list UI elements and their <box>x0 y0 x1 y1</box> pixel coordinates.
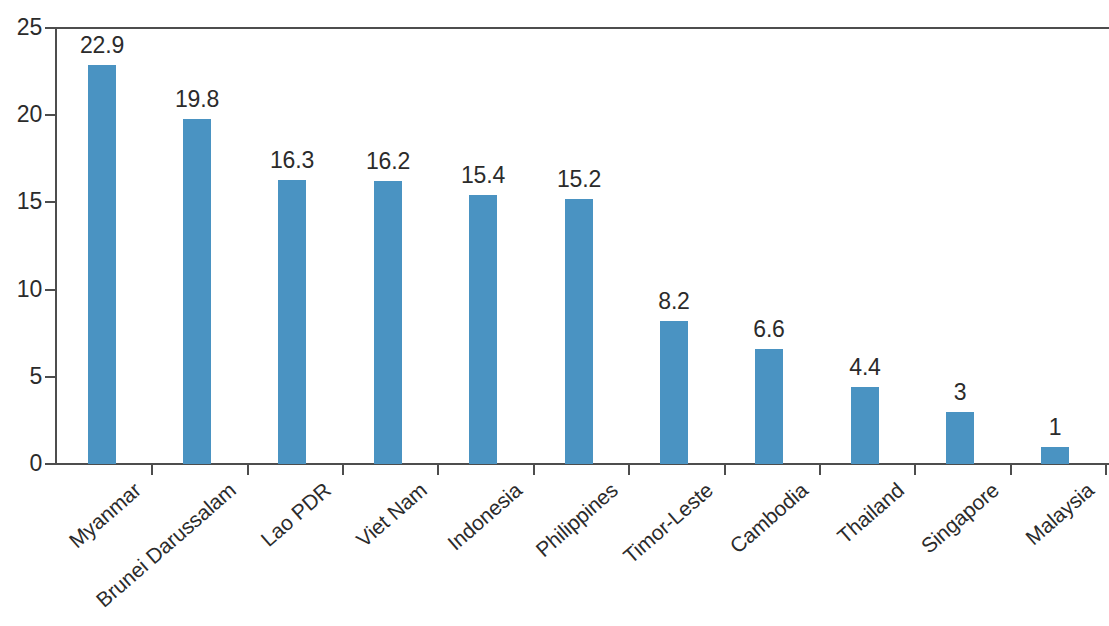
x-axis-tick <box>628 464 630 475</box>
x-axis-category-label-text: Malaysia <box>1021 478 1099 550</box>
bar-value-label: 1 <box>1010 416 1100 439</box>
y-axis: 0510152025 <box>0 0 42 626</box>
bar-chart: 0510152025 22.919.816.316.215.415.28.26.… <box>0 0 1109 626</box>
x-axis-category-label-text: Lao PDR <box>257 478 337 552</box>
bar[interactable] <box>278 180 306 464</box>
bar-value-label: 6.6 <box>724 318 814 341</box>
x-axis-category-label-text: Cambodia <box>726 478 813 558</box>
y-axis-tick-label: 5 <box>0 365 42 388</box>
x-axis-category-label-text: Philippines <box>531 478 623 562</box>
x-axis-category-label-text: Viet Nam <box>351 478 431 552</box>
x-axis-category-label-text: Indonesia <box>443 478 527 555</box>
bar[interactable] <box>660 321 688 464</box>
x-axis-tick <box>533 464 535 475</box>
x-axis-tick <box>914 464 916 475</box>
bar[interactable] <box>183 119 211 464</box>
x-axis-tick <box>437 464 439 475</box>
x-axis-tick <box>1105 464 1107 475</box>
x-axis-category-label-text: Singapore <box>916 478 1003 558</box>
bar-value-label: 22.9 <box>57 34 147 57</box>
bar-value-label: 15.4 <box>438 164 528 187</box>
top-gridline <box>56 27 1109 29</box>
bar-value-label: 15.2 <box>534 168 624 191</box>
x-axis-tick <box>819 464 821 475</box>
bar-value-label: 8.2 <box>629 290 719 313</box>
y-axis-tick-label: 15 <box>0 190 42 213</box>
y-axis-tick-label: 20 <box>0 103 42 126</box>
bar[interactable] <box>374 181 402 464</box>
x-axis-tick <box>151 464 153 475</box>
bar-value-label: 16.2 <box>343 150 433 173</box>
x-axis-category-label-text: Myanmar <box>64 478 145 553</box>
x-axis-tick <box>342 464 344 475</box>
x-axis-tick <box>724 464 726 475</box>
bar[interactable] <box>755 349 783 464</box>
bar-value-label: 4.4 <box>820 356 910 379</box>
bar-value-label: 19.8 <box>152 88 242 111</box>
bar-value-label: 3 <box>915 381 1005 404</box>
y-axis-tick-label: 10 <box>0 278 42 301</box>
x-axis-tick <box>247 464 249 475</box>
bar[interactable] <box>1041 447 1069 464</box>
y-axis-line <box>55 27 57 465</box>
x-axis-category-label-text: Timor-Leste <box>619 478 718 568</box>
bar[interactable] <box>88 65 116 464</box>
bar[interactable] <box>946 412 974 464</box>
bar[interactable] <box>565 199 593 464</box>
y-axis-tick-label: 0 <box>0 452 42 475</box>
bar[interactable] <box>469 195 497 464</box>
bar-value-label: 16.3 <box>247 149 337 172</box>
y-axis-tick-label: 25 <box>0 16 42 39</box>
x-axis-category-label-text: Thailand <box>832 478 908 548</box>
bar[interactable] <box>851 387 879 464</box>
x-axis-tick <box>1010 464 1012 475</box>
